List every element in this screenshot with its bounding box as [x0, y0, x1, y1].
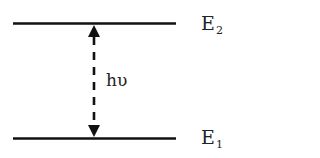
- arrowhead-down-icon: [88, 125, 100, 137]
- upper-level-label: E2: [201, 14, 223, 36]
- upper-level-symbol: E: [201, 12, 215, 34]
- lower-level-label: E1: [201, 128, 223, 150]
- arrowhead-up-icon: [88, 25, 100, 37]
- lower-level-subscript: 1: [216, 138, 223, 151]
- lower-level-symbol: E: [201, 126, 215, 148]
- upper-level-subscript: 2: [216, 24, 223, 37]
- photon-energy-label: hυ: [106, 72, 127, 89]
- transition-arrow: [88, 25, 100, 137]
